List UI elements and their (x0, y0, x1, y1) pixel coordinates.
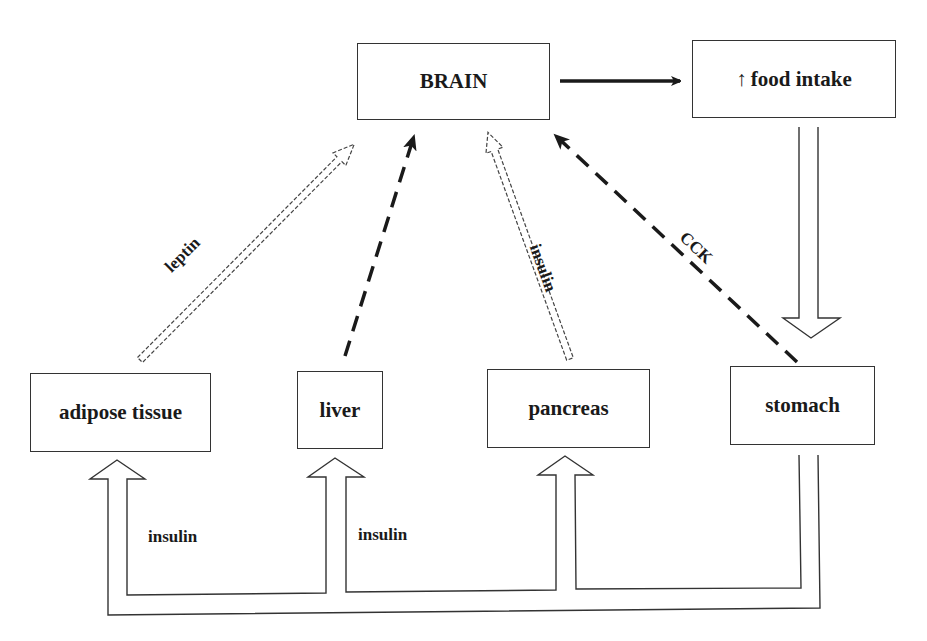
food-intake-to-stomach-arrow (783, 127, 840, 338)
leptin-arrow (134, 138, 361, 366)
stomach-node: stomach (730, 366, 875, 445)
brain-node: BRAIN (357, 43, 550, 120)
liver-insulin-label: insulin (358, 525, 407, 545)
adipose-tissue-label: adipose tissue (59, 402, 182, 423)
food-intake-label: food intake (751, 67, 852, 91)
up-arrow-icon: ↑ (736, 69, 747, 90)
stomach-label: stomach (765, 395, 840, 416)
liver-label: liver (320, 400, 361, 421)
brain-label: BRAIN (420, 71, 488, 92)
food-intake-node: ↑food intake (692, 40, 896, 118)
stomach-insulin-pipe (90, 455, 820, 615)
adipose-insulin-label: insulin (148, 527, 197, 547)
liver-node: liver (297, 371, 383, 449)
pancreas-node: pancreas (487, 369, 650, 448)
adipose-tissue-node: adipose tissue (30, 373, 211, 452)
cck-arrow (555, 135, 797, 362)
liver-to-brain-arrow (345, 136, 414, 356)
pancreas-label: pancreas (528, 398, 608, 419)
